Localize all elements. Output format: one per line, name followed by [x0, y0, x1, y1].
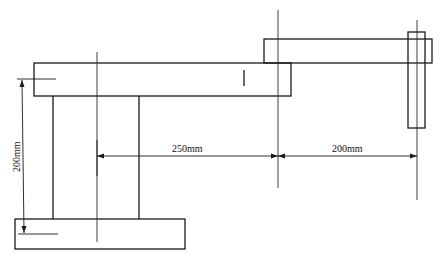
upper-arm-block	[34, 63, 291, 96]
arrow-down-icon	[22, 226, 27, 233]
forearm-block	[264, 39, 432, 63]
arrow-up-icon	[20, 80, 25, 87]
vertical-dimension-line	[22, 80, 24, 233]
arm2-length-label: 200mm	[332, 143, 363, 154]
column-height-label: 200mm	[11, 141, 22, 172]
robot-arm-drawing: 200mm 250mm 200mm	[0, 0, 447, 262]
arrow-left-icon	[97, 154, 104, 159]
end-effector-block	[408, 32, 425, 128]
arm1-length-label: 250mm	[172, 143, 203, 154]
arrow-right-icon	[410, 154, 417, 159]
arrow-left-icon	[278, 154, 285, 159]
arrow-right-icon	[271, 154, 278, 159]
